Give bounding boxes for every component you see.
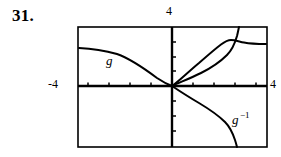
graph-svg: g g −1 [77, 26, 268, 148]
graph-viewport: g g −1 [77, 26, 268, 148]
curve-label-g-inverse: g [232, 112, 239, 127]
problem-number: 31. [12, 6, 34, 26]
x-axis-max-label: 4 [270, 77, 276, 92]
y-axis-max-label: 4 [166, 4, 172, 19]
curve-label-g-inverse-exponent: −1 [240, 110, 250, 120]
curve-label-g: g [106, 53, 113, 68]
x-axis-min-label: -4 [48, 77, 58, 92]
figure-container: 31. 4 -4 4 [0, 0, 281, 157]
